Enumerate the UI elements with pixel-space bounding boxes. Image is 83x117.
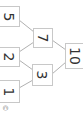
node-3: 3 <box>32 64 53 86</box>
node-label: 2 <box>2 53 16 62</box>
node-label: 7 <box>36 34 50 43</box>
edge-3-10 <box>52 62 66 74</box>
edge-5-7 <box>19 20 34 32</box>
edge-2-3 <box>19 60 33 70</box>
node-label: 1 <box>2 87 16 96</box>
node-10: 10 <box>65 43 83 69</box>
node-label: 3 <box>35 71 49 80</box>
edge-1-3 <box>19 80 33 88</box>
copyright-mark: © <box>1 105 9 112</box>
node-2: 2 <box>0 47 20 67</box>
node-5: 5 <box>0 6 20 27</box>
edge-7-10 <box>52 40 66 50</box>
node-7: 7 <box>33 28 53 48</box>
node-label: 5 <box>2 12 16 21</box>
node-1: 1 <box>0 80 20 103</box>
node-label: 10 <box>68 47 82 65</box>
edge-2-7 <box>19 42 34 52</box>
